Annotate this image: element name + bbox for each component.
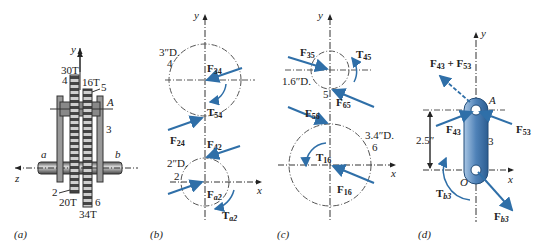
force-f24-arrow [168,118,202,130]
gear-2-label: 2 [52,186,58,198]
arm-label: 3 [488,135,494,147]
force-sum-arrow [440,76,470,102]
gear-4-2 [70,75,79,193]
z-axis-label: z [14,172,20,184]
panel-b: y 3″D. 4 x 2″D. 2 F34 T54 F24 F42 Fa2 Ta… [150,9,262,241]
gear-2-label: 2 [174,170,180,182]
fb3-label: Fb3 [494,210,509,224]
dimension-2-5: 2.5″ [416,134,434,146]
gear-train-diagram: y z a b A 3 30T 4 16T 5 2 20T 6 34T (a) … [0,0,545,245]
t45-label: T45 [356,48,371,62]
f43-plus-f53-label: F43 + F53 [430,57,471,71]
gear-2-teeth: 20T [59,196,77,208]
f34-label: F34 [207,62,222,76]
panel-c: y 1.6″D. 5 x 3.4″D. 6 F35 T45 F65 F56 T1… [277,9,396,241]
y-axis-label: y [193,9,199,21]
ta2-label: Ta2 [222,209,237,223]
gear-5-label: 5 [323,88,329,100]
pin-a [471,105,481,115]
f65-label: F65 [336,96,351,110]
y-axis-label: y [480,27,486,39]
f56-label: F56 [305,107,320,121]
caption-d: (d) [418,228,431,241]
shaft-b-label: b [115,148,121,160]
shaft-a-label: a [41,148,47,160]
caption-b: (b) [150,228,163,241]
gear-4-label: 4 [167,57,173,69]
caption-a: (a) [14,228,27,241]
gear-5-label: 5 [101,81,107,93]
x-axis-label: x [390,167,396,179]
gear-6-label: 6 [95,196,101,208]
force-fb3-arrow [478,172,512,210]
point-o-label: O [460,176,468,188]
caption-c: (c) [277,228,290,241]
f35-label: F35 [300,46,315,60]
gear-4-label: 4 [62,74,68,86]
fa2-label: Fa2 [207,188,222,202]
tb3-label: Tb3 [436,187,451,201]
y-axis-label: y [70,43,76,55]
arm-label: 3 [106,123,112,135]
t16-label: T16 [316,151,331,165]
gear-2-diameter: 2″D. [167,157,188,169]
panel-d: y x A O 3 2.5″ F43 + F53 F43 F53 Fb3 Tb3… [416,27,531,241]
f43-label: F43 [446,123,461,137]
t54-label: T54 [207,106,222,120]
force-f16-arrow [333,166,374,183]
pin-a-label: A [106,96,114,108]
f16-label: F16 [337,183,352,197]
gear-5-6 [83,89,92,207]
panel-a: y z a b A 3 30T 4 16T 5 2 20T 6 34T (a) [14,43,138,241]
point-a-label: A [488,94,496,106]
gear-6-label: 6 [372,141,378,153]
torque-t54-arrow [210,84,226,102]
x-axis-label: x [256,184,262,196]
f53-label: F53 [516,123,531,137]
gear-5-teeth: 16T [82,76,100,88]
f42-label: F42 [207,138,222,152]
gear-6-teeth: 34T [79,208,97,220]
y-axis-label: y [317,9,323,21]
x-axis-label: x [507,173,513,185]
force-fa2-arrow [168,182,202,194]
gear-5-diameter: 1.6″D. [282,75,311,87]
f24-label: F24 [170,134,185,148]
gear-6-diameter: 3.4″D. [365,129,394,141]
